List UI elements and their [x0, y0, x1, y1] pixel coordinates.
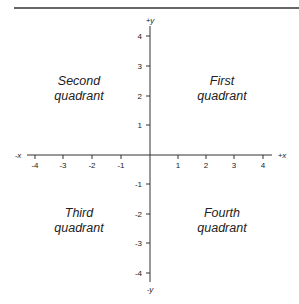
quadrant-name: Fourth: [177, 206, 267, 221]
quadrant-name: Third: [34, 206, 124, 221]
y-tick-label: -2: [135, 210, 143, 219]
second-quadrant-label: Second quadrant: [34, 74, 124, 104]
y-tick-label: -3: [135, 239, 143, 248]
quadrant-name: Second: [34, 74, 124, 89]
quadrant-word: quadrant: [177, 89, 267, 104]
y-tick-label: 1: [138, 121, 143, 130]
x-tick-label: -1: [117, 161, 125, 170]
quadrant-word: quadrant: [34, 221, 124, 236]
y-tick-label: -1: [135, 180, 143, 189]
x-negative-label: -x: [15, 151, 23, 160]
x-tick-label: -2: [88, 161, 96, 170]
first-quadrant-label: First quadrant: [177, 74, 267, 104]
x-tick-label: 2: [204, 161, 209, 170]
quadrant-word: quadrant: [34, 89, 124, 104]
y-negative-label: -y: [147, 285, 155, 294]
y-tick-label: 2: [138, 92, 143, 101]
coordinate-plane: -4 -3 -2 -1 1 2 3 4 4 3 2 1 -1 -2 -3 -4 …: [0, 0, 299, 304]
y-positive-label: +y: [146, 16, 156, 25]
y-tick-label: -4: [135, 269, 143, 278]
third-quadrant-label: Third quadrant: [34, 206, 124, 236]
x-tick-label: -3: [59, 161, 67, 170]
x-tick-label: 4: [261, 161, 266, 170]
quadrant-name: First: [177, 74, 267, 89]
quadrant-word: quadrant: [177, 221, 267, 236]
x-tick-label: 3: [232, 161, 237, 170]
x-tick-label: 1: [176, 161, 181, 170]
x-tick-label: -4: [31, 161, 39, 170]
y-tick-label: 3: [138, 62, 143, 71]
fourth-quadrant-label: Fourth quadrant: [177, 206, 267, 236]
y-tick-label: 4: [138, 32, 143, 41]
x-axis-ticks: [35, 155, 263, 159]
x-positive-label: +x: [278, 151, 288, 160]
